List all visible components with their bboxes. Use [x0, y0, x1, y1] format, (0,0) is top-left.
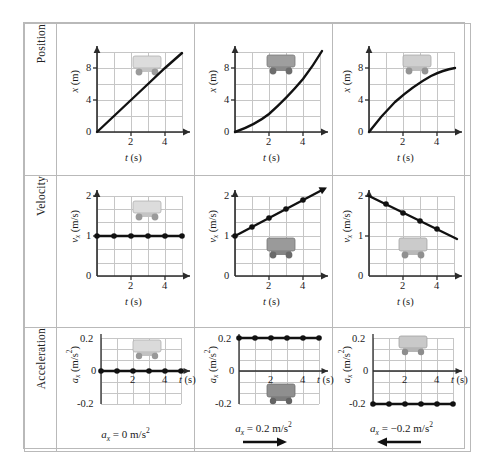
xtick-4: 4: [300, 280, 305, 291]
xtick-2: 2: [400, 136, 405, 147]
cart-icon: [133, 56, 161, 75]
y-axis-label: x (m): [207, 70, 218, 92]
cell-acceleration-pos: 0.2 0 -0.2 2 4 ax (m/s2) t (s) ax = 0.2 …: [195, 328, 333, 452]
y-axis-label: vx (m/s): [341, 210, 354, 243]
ytick-4: 4: [224, 94, 229, 105]
x-axis-label: t (s): [179, 374, 196, 385]
ytick-2: 2: [224, 190, 229, 201]
xtick-2: 2: [402, 374, 407, 385]
cell-acceleration-zero: 0.2 0 -0.2 2 4 ax (m/s2) t (s) ax = 0 m/…: [57, 328, 195, 452]
x-axis-label: t (s): [317, 374, 334, 385]
ytick-zero: 0: [91, 365, 96, 376]
ytick-0: 0: [224, 270, 229, 281]
ytick-2: 2: [358, 190, 363, 201]
row-label-position: Position: [25, 24, 57, 176]
xtick-4: 4: [162, 136, 167, 147]
motion-graphs-figure: Position: [23, 22, 465, 449]
y-axis-label: ax (m/s2): [65, 346, 82, 383]
x-axis-label: t (s): [125, 152, 142, 163]
cart-icon: [399, 336, 427, 355]
xtick-4: 4: [434, 280, 439, 291]
cart-icon: [267, 55, 295, 74]
ytick-8: 8: [86, 62, 91, 73]
cart-icon: [267, 238, 295, 258]
cart-icon: [267, 384, 295, 404]
xtick-2: 2: [128, 136, 133, 147]
x-axis-label: t (s): [263, 152, 280, 163]
cart-icon: [133, 201, 161, 220]
ytick-pos02: 0.2: [352, 333, 365, 344]
ytick-4: 4: [86, 94, 91, 105]
cart-icon: [133, 340, 161, 359]
ytick-0: 0: [358, 126, 363, 137]
xtick-2: 2: [268, 374, 273, 385]
x-axis-label: t (s): [397, 152, 414, 163]
ytick-zero: 0: [363, 365, 368, 376]
ytick-2: 2: [86, 190, 91, 201]
xtick-2: 2: [266, 136, 271, 147]
y-axis-label: vx (m/s): [207, 210, 220, 243]
xtick-4: 4: [300, 374, 305, 385]
y-axis-label: ax (m/s2): [337, 346, 354, 383]
row-label-position-text: Position: [35, 24, 47, 63]
cart-icon: [399, 238, 427, 258]
table-row-position: Position: [25, 24, 471, 176]
cell-velocity-pos-accel: 0 1 2 2 4 vx (m/s) t (s): [195, 176, 333, 328]
ytick-1: 1: [358, 230, 363, 241]
cell-position-pos-accel: 0 4 8 2 4 x (m) t (s): [195, 24, 333, 176]
ytick-8: 8: [358, 62, 363, 73]
x-axis-label: t (s): [125, 296, 142, 307]
y-axis-label: ax (m/s2): [203, 346, 220, 383]
row-label-velocity-text: Velocity: [35, 176, 47, 216]
cell-position-neg-accel: 0 4 8 2 4 x (m) t (s): [333, 24, 471, 176]
y-axis-label: x (m): [69, 70, 80, 92]
cell-velocity-zero-accel: 0 1 2 2 4 vx (m/s) t (s): [57, 176, 195, 328]
xtick-4: 4: [434, 136, 439, 147]
cell-acceleration-neg: 0.2 0 -0.2 2 4 ax (m/s2) t (s) ax = −0.2…: [333, 328, 471, 452]
x-axis-label: t (s): [451, 374, 468, 385]
xtick-4: 4: [162, 280, 167, 291]
ytick-pos02: 0.2: [80, 333, 93, 344]
ytick-0: 0: [86, 126, 91, 137]
ytick-neg02: -0.2: [77, 398, 94, 409]
row-label-acceleration-text: Acceleration: [35, 328, 47, 389]
table-row-velocity: Velocity: [25, 176, 471, 328]
ytick-neg02: -0.2: [349, 398, 366, 409]
row-label-acceleration: Acceleration: [25, 328, 57, 452]
y-axis-label: x (m): [341, 70, 352, 92]
xtick-2: 2: [128, 280, 133, 291]
ytick-pos02: 0.2: [218, 333, 231, 344]
xtick-2: 2: [266, 280, 271, 291]
xtick-4: 4: [434, 374, 439, 385]
ytick-0: 0: [358, 270, 363, 281]
ytick-0: 0: [86, 270, 91, 281]
motion-graphs-table: Position: [24, 23, 471, 452]
ytick-1: 1: [86, 230, 91, 241]
xtick-4: 4: [300, 136, 305, 147]
cell-position-zero-accel: 0 4 8 2 4 x (m) t (s): [57, 24, 195, 176]
ytick-neg02: -0.2: [215, 398, 232, 409]
caption-accel-pos: ax = 0.2 m/s2: [195, 420, 332, 437]
ytick-4: 4: [358, 94, 363, 105]
x-axis-label: t (s): [263, 296, 280, 307]
y-axis-label: vx (m/s): [69, 210, 82, 243]
ytick-8: 8: [224, 62, 229, 73]
row-label-velocity: Velocity: [25, 176, 57, 328]
xtick-2: 2: [400, 280, 405, 291]
caption-accel-zero: ax = 0 m/s2: [57, 426, 194, 443]
x-axis-label: t (s): [397, 296, 414, 307]
ytick-zero: 0: [229, 365, 234, 376]
caption-accel-neg: ax = −0.2 m/s2: [333, 420, 470, 437]
ytick-1: 1: [224, 230, 229, 241]
xtick-4: 4: [162, 374, 167, 385]
table-row-acceleration: Acceleration: [25, 328, 471, 452]
arrow-left-icon: [333, 436, 470, 448]
cell-velocity-neg-accel: 0 1 2 2 4 vx (m/s) t (s): [333, 176, 471, 328]
xtick-2: 2: [130, 374, 135, 385]
arrow-right-icon: [195, 436, 332, 448]
cart-icon: [403, 55, 431, 74]
ytick-0: 0: [224, 126, 229, 137]
